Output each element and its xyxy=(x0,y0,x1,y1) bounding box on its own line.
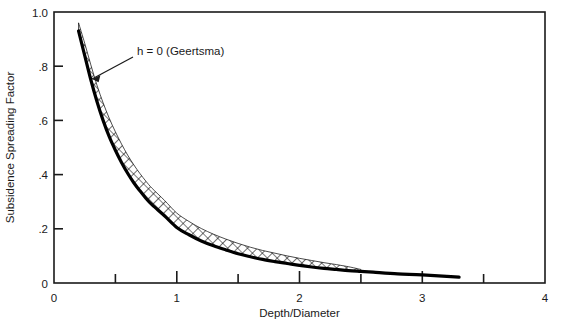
x-tick-label: 4 xyxy=(542,292,549,304)
y-tick-label: .2 xyxy=(38,223,48,235)
y-tick-label: 1.0 xyxy=(32,7,48,19)
plot-frame xyxy=(54,12,545,283)
annotation-label: h = 0 (Geertsma) xyxy=(137,45,224,57)
x-axis-title: Depth/Diameter xyxy=(259,307,340,319)
y-tick-label: .6 xyxy=(38,115,48,127)
x-tick-label: 3 xyxy=(419,292,425,304)
y-axis-title: Subsidence Spreading Factor xyxy=(4,72,16,224)
y-axis-ticks xyxy=(54,66,63,229)
y-tick-labels: 1.0 .8 .6 .4 .2 0 xyxy=(32,7,49,290)
subsidence-spreading-factor-chart: 1.0 .8 .6 .4 .2 0 0 1 2 3 4 Depth/Diamet… xyxy=(0,0,566,321)
crosshatch-band xyxy=(79,23,361,272)
annotation-leader-line xyxy=(92,57,133,82)
y-tick-label: 0 xyxy=(42,278,48,290)
x-tick-labels: 0 1 2 3 4 xyxy=(51,292,549,304)
chart-figure: 1.0 .8 .6 .4 .2 0 0 1 2 3 4 Depth/Diamet… xyxy=(0,0,566,321)
x-tick-label: 0 xyxy=(51,292,57,304)
x-tick-label: 1 xyxy=(174,292,180,304)
geertsma-curve xyxy=(79,31,460,277)
y-tick-label: .8 xyxy=(38,61,48,73)
y-tick-label: .4 xyxy=(38,169,48,181)
x-tick-label: 2 xyxy=(296,292,302,304)
x-axis-ticks xyxy=(115,271,483,283)
